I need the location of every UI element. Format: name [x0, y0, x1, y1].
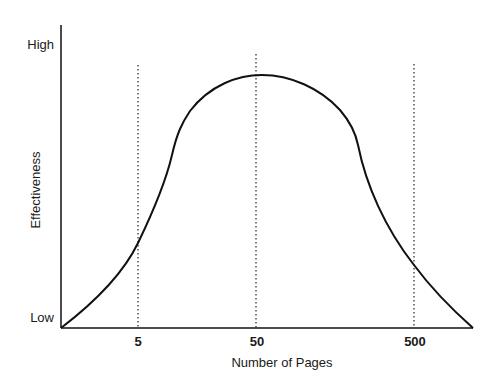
- x-tick-5: 5: [134, 334, 141, 349]
- x-tick-50: 50: [250, 334, 264, 349]
- effectiveness-chart: High Low Effectiveness 5 50 500 Number o…: [0, 0, 499, 384]
- y-label-high: High: [27, 37, 54, 52]
- x-tick-500: 500: [404, 334, 426, 349]
- y-label-low: Low: [30, 310, 54, 325]
- y-axis-title: Effectiveness: [28, 151, 43, 229]
- effectiveness-curve: [61, 75, 473, 328]
- x-axis-title: Number of Pages: [231, 355, 333, 370]
